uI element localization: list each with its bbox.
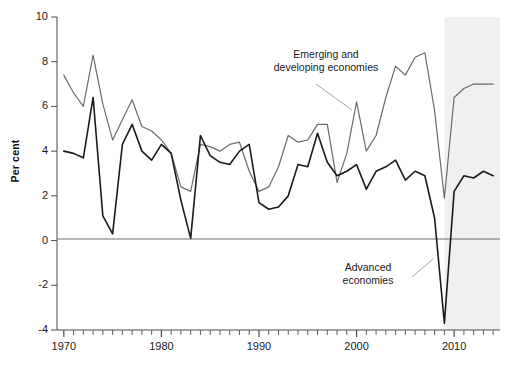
leader-line-emerging [316, 84, 352, 110]
y-tick-label: 4 [18, 145, 48, 156]
y-tick-label: -4 [18, 324, 48, 335]
x-tick-label: 1990 [237, 341, 281, 352]
series-line-advanced-economies [64, 97, 493, 323]
forecast-shaded-band [444, 17, 500, 330]
y-axis-major-ticks [51, 17, 57, 330]
y-tick-label: 10 [18, 11, 48, 22]
annotation-leader-lines [316, 84, 433, 277]
y-tick-label: 0 [18, 235, 48, 246]
annotation-advanced-economies: Advanced economies [316, 261, 420, 287]
x-tick-label: 2010 [432, 341, 476, 352]
y-tick-label: -2 [18, 279, 48, 290]
chart-figure: Per cent -4-20246810 1970198019902000201… [0, 0, 510, 371]
annotation-emerging-and-developing-economies: Emerging and developing economies [258, 48, 394, 74]
y-tick-label: 6 [18, 100, 48, 111]
y-tick-label: 2 [18, 190, 48, 201]
chart-plot-svg [0, 0, 510, 371]
y-axis-title: Per cent [9, 126, 21, 196]
x-tick-label: 1980 [139, 341, 183, 352]
forecast-band-rect [444, 17, 500, 330]
x-tick-label: 2000 [335, 341, 379, 352]
series-line-emerging-and-developing-economies [64, 53, 493, 198]
y-tick-label: 8 [18, 56, 48, 67]
x-tick-label: 1970 [42, 341, 86, 352]
x-axis-minor-ticks [64, 330, 493, 337]
series-lines [64, 53, 493, 324]
